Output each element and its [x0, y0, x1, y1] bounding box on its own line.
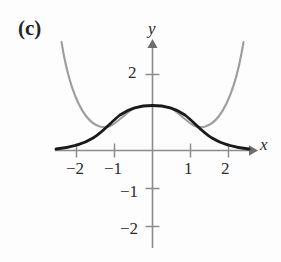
plot-canvas: [0, 0, 281, 262]
x-tick-label-1: 1: [184, 160, 193, 177]
y-axis-label: y: [148, 20, 156, 37]
x-tick-label-minus-1: −1: [104, 160, 122, 177]
y-axis: [147, 39, 157, 248]
x-tick-label-2: 2: [221, 160, 230, 177]
x-axis: [55, 145, 258, 156]
y-tick-label-minus-2: −2: [120, 220, 138, 237]
x-axis-label: x: [260, 136, 268, 153]
y-tick-label-minus-1: −1: [120, 183, 138, 200]
y-tick-label-2: 2: [128, 64, 137, 81]
figure-panel: (c): [0, 0, 281, 262]
x-tick-label-minus-2: −2: [66, 160, 84, 177]
